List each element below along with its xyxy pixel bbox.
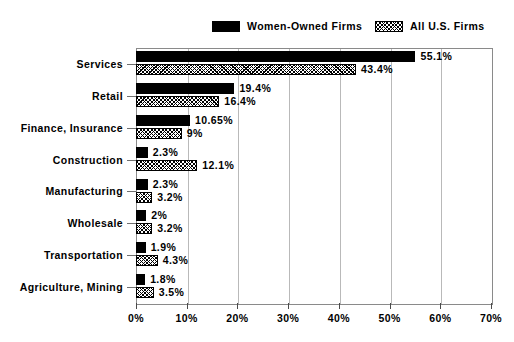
bar-value-label: 4.3% [163, 255, 189, 266]
bar-value-label: 1.9% [151, 242, 177, 253]
legend-label-all-us-firms: All U.S. Firms [410, 21, 485, 32]
bar-value-label: 2.3% [153, 179, 179, 190]
bar-value-label: 12.1% [202, 160, 234, 171]
x-axis-tick-mark [440, 303, 441, 309]
bar-value-label: 2% [151, 210, 167, 221]
y-axis-tick-mark [127, 160, 136, 161]
bars-layer: 55.1%43.4%19.4%16.4%10.65%9%2.3%12.1%2.3… [136, 48, 491, 303]
bar-women-owned-firms [136, 147, 148, 158]
bar-value-label: 2.3% [153, 147, 179, 158]
bar-women-owned-firms [136, 179, 148, 190]
bar-value-label: 10.65% [195, 115, 233, 126]
x-axis-label-20: 20% [226, 312, 248, 324]
bar-all-us-firms [136, 287, 154, 298]
y-axis-tick-mark [127, 287, 136, 288]
x-axis-tick-mark [491, 303, 492, 309]
legend-item-all-us-firms: All U.S. Firms [375, 16, 485, 36]
bar-value-label: 55.1% [420, 51, 452, 62]
bar-group: 1.8%3.5% [136, 271, 491, 303]
legend-label-women-owned-firms: Women-Owned Firms [247, 21, 362, 32]
chart-legend: Women-Owned Firms All U.S. Firms [0, 16, 514, 36]
bar-all-us-firms [136, 192, 152, 203]
y-axis-tick-mark [127, 255, 136, 256]
bar-group: 1.9%4.3% [136, 239, 491, 271]
bar-all-us-firms [136, 96, 219, 107]
bar-value-label: 16.4% [224, 96, 256, 107]
bar-all-us-firms [136, 64, 356, 75]
bar-value-label: 3.5% [159, 287, 185, 298]
bar-all-us-firms [136, 128, 182, 139]
bar-group: 10.65%9% [136, 112, 491, 144]
bar-value-label: 3.2% [157, 223, 183, 234]
x-axis-tick-mark [136, 303, 137, 309]
legend-swatch-diagonal-hatch-icon [375, 21, 403, 32]
x-axis-label-50: 50% [378, 312, 400, 324]
y-axis-label-wholesale: Wholesale [67, 217, 123, 229]
x-axis-label-70: 70% [480, 312, 502, 324]
y-axis-tick-mark [127, 223, 136, 224]
bar-women-owned-firms [136, 274, 145, 285]
y-axis-label-services: Services [77, 58, 123, 70]
y-axis: ServicesRetailFinance, InsuranceConstruc… [0, 48, 136, 303]
bar-women-owned-firms [136, 115, 190, 126]
bar-women-owned-firms [136, 210, 146, 221]
x-axis-label-40: 40% [328, 312, 350, 324]
x-axis-label-30: 30% [277, 312, 299, 324]
x-axis-tick-mark [187, 303, 188, 309]
x-axis-tick-mark [339, 303, 340, 309]
bar-group: 55.1%43.4% [136, 48, 491, 80]
y-axis-label-retail: Retail [92, 90, 123, 102]
y-axis-tick-mark [127, 191, 136, 192]
bar-women-owned-firms [136, 242, 146, 253]
y-axis-label-construction: Construction [53, 154, 123, 166]
bar-all-us-firms [136, 255, 158, 266]
x-axis: 0%10%20%30%40%50%60%70% [136, 303, 491, 333]
bar-value-label: 3.2% [157, 192, 183, 203]
bar-group: 2.3%12.1% [136, 144, 491, 176]
bar-women-owned-firms [136, 83, 234, 94]
bar-value-label: 43.4% [361, 64, 393, 75]
y-axis-tick-mark [127, 96, 136, 97]
bar-group: 2%3.2% [136, 207, 491, 239]
y-axis-label-agriculture-mining: Agriculture, Mining [20, 281, 123, 293]
y-axis-label-transportation: Transportation [44, 249, 123, 261]
bar-value-label: 19.4% [239, 83, 271, 94]
x-axis-label-0: 0% [128, 312, 144, 324]
bar-value-label: 9% [187, 128, 203, 139]
x-axis-tick-mark [237, 303, 238, 309]
bar-all-us-firms [136, 223, 152, 234]
y-axis-label-finance-insurance: Finance, Insurance [21, 122, 123, 134]
x-axis-tick-mark [288, 303, 289, 309]
x-axis-tick-mark [390, 303, 391, 309]
x-axis-label-60: 60% [429, 312, 451, 324]
bar-value-label: 1.8% [150, 274, 176, 285]
bar-women-owned-firms [136, 51, 415, 62]
bar-all-us-firms [136, 160, 197, 171]
legend-swatch-solid-black-icon [212, 21, 240, 32]
bar-group: 19.4%16.4% [136, 80, 491, 112]
y-axis-label-manufacturing: Manufacturing [45, 185, 123, 197]
y-axis-tick-mark [127, 128, 136, 129]
legend-item-women-owned-firms: Women-Owned Firms [212, 16, 362, 36]
x-axis-label-10: 10% [176, 312, 198, 324]
y-axis-tick-mark [127, 64, 136, 65]
bar-group: 2.3%3.2% [136, 176, 491, 208]
